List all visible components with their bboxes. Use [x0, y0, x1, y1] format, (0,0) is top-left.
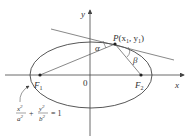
alpha-arc — [103, 41, 106, 48]
point-p-label: P(x1, y1) — [112, 33, 144, 44]
f1-label: F1 — [33, 80, 43, 91]
focal-radius-1 — [40, 44, 115, 75]
f2-label: F2 — [134, 80, 144, 91]
focus-f1 — [38, 73, 41, 76]
svg-text:x2: x2 — [16, 104, 23, 113]
beta-label: β — [132, 55, 138, 65]
x-axis-label: x — [174, 80, 179, 90]
origin-label: 0 — [83, 78, 88, 88]
svg-text:a2: a2 — [17, 114, 24, 123]
ellipse-diagram: y x 0 P(x1, y1) α β F1 F2 x2 a2 + y2 b2 … — [0, 0, 191, 139]
leader-arrow — [20, 86, 29, 102]
y-axis-label: y — [80, 9, 85, 19]
ellipse-equation: x2 a2 + y2 b2 = 1 — [16, 104, 62, 123]
focus-f2 — [139, 73, 142, 76]
svg-text:= 1: = 1 — [51, 109, 62, 118]
svg-text:y2: y2 — [38, 104, 45, 113]
alpha-label: α — [95, 43, 100, 53]
svg-text:b2: b2 — [39, 114, 46, 123]
svg-text:+: + — [29, 109, 34, 118]
